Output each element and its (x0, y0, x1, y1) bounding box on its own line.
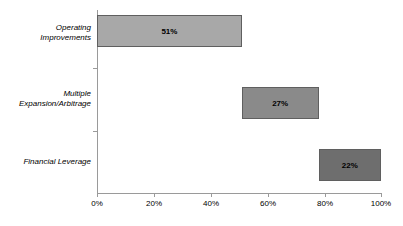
x-axis-label-100: 100% (361, 199, 401, 208)
y-axis-tick-1 (93, 68, 97, 69)
category-label-line-2: Improvements (0, 33, 91, 43)
x-axis-tick-60 (268, 193, 269, 197)
bar-value-label: 27% (243, 88, 318, 118)
x-axis-tick-0 (97, 193, 98, 197)
x-axis-tick-100 (381, 193, 382, 197)
x-axis-tick-20 (154, 193, 155, 197)
bar-value-label: 51% (98, 16, 241, 46)
x-axis-line (97, 193, 382, 194)
x-axis-label-0: 0% (77, 199, 117, 208)
chart-screenshot: 0% 20% 40% 60% 80% 100% Operating Improv… (0, 0, 403, 226)
x-axis-label-40: 40% (191, 199, 231, 208)
x-axis-label-20: 20% (134, 199, 174, 208)
x-axis-tick-40 (211, 193, 212, 197)
category-label-financial-leverage: Financial Leverage (0, 157, 91, 167)
category-label-line-1: Financial Leverage (0, 157, 91, 167)
category-label-line-1: Multiple (0, 89, 91, 99)
x-axis-tick-80 (325, 193, 326, 197)
bar-operating-improvements[interactable]: 51% (97, 15, 242, 47)
bar-financial-leverage[interactable]: 22% (319, 149, 381, 181)
bar-multiple-expansion-arbitrage[interactable]: 27% (242, 87, 319, 119)
x-axis-label-80: 80% (305, 199, 345, 208)
category-label-multiple-expansion-arbitrage: Multiple Expansion/Arbitrage (0, 89, 91, 109)
waterfall-chart-plot-area: 0% 20% 40% 60% 80% 100% Operating Improv… (0, 0, 403, 226)
category-label-line-1: Operating (0, 23, 91, 33)
category-label-operating-improvements: Operating Improvements (0, 23, 91, 43)
x-axis-label-60: 60% (248, 199, 288, 208)
category-label-line-2: Expansion/Arbitrage (0, 99, 91, 109)
bar-value-label: 22% (320, 150, 380, 180)
y-axis-tick-2 (93, 131, 97, 132)
